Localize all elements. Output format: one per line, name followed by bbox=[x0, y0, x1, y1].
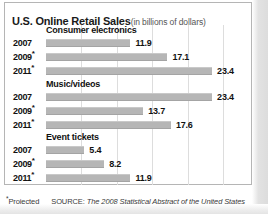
bar-row: 2011*17.6 bbox=[5, 120, 253, 131]
bar-value-label: 23.4 bbox=[217, 66, 234, 76]
bar-row: 200711.9 bbox=[5, 38, 253, 49]
bar-value-label: 8.2 bbox=[109, 159, 121, 169]
chart-panel: U.S. Online Retail Sales(in billions of … bbox=[4, 2, 252, 185]
asterisk-icon: * bbox=[32, 156, 35, 165]
bar bbox=[46, 93, 212, 101]
group-label: Event tickets bbox=[46, 132, 99, 142]
bar-value-label: 11.9 bbox=[135, 173, 151, 183]
scan-shadow-right bbox=[252, 0, 268, 214]
row-year-label: 2009* bbox=[13, 52, 35, 62]
row-year-label: 2011* bbox=[13, 173, 34, 183]
asterisk-icon: * bbox=[31, 117, 34, 126]
bar bbox=[46, 67, 212, 75]
asterisk-icon: * bbox=[32, 103, 35, 112]
plot-area: Consumer electronics200711.92009*17.1201… bbox=[5, 25, 253, 185]
bar-row: 200723.4 bbox=[5, 92, 253, 103]
bar bbox=[46, 121, 171, 129]
bar-value-label: 17.1 bbox=[172, 52, 189, 62]
scan-shadow-bottom bbox=[0, 204, 268, 214]
bar-row: 2009*13.7 bbox=[5, 106, 253, 117]
bar-group: Event tickets20075.42009*8.22011*11.9 bbox=[5, 132, 253, 187]
bar bbox=[46, 146, 84, 154]
group-label: Music/videos bbox=[46, 79, 100, 89]
row-year-label: 2011* bbox=[13, 66, 34, 76]
row-year-label: 2009* bbox=[13, 106, 35, 116]
asterisk-icon: * bbox=[31, 63, 34, 72]
bar-value-label: 5.4 bbox=[89, 145, 101, 155]
bar-row: 2009*17.1 bbox=[5, 52, 253, 63]
row-year-label: 2007 bbox=[13, 92, 32, 102]
bar-group: Music/videos200723.42009*13.72011*17.6 bbox=[5, 79, 253, 134]
bar-value-label: 11.9 bbox=[135, 38, 151, 48]
bar bbox=[46, 53, 167, 61]
bar-value-label: 13.7 bbox=[148, 106, 165, 116]
row-year-label: 2007 bbox=[13, 145, 32, 155]
bar bbox=[46, 107, 143, 115]
bar bbox=[46, 39, 130, 47]
bar-group: Consumer electronics200711.92009*17.1201… bbox=[5, 25, 253, 80]
bar-value-label: 23.4 bbox=[217, 92, 234, 102]
bar-row: 2011*23.4 bbox=[5, 66, 253, 77]
asterisk-icon: * bbox=[32, 49, 35, 58]
bar bbox=[46, 174, 130, 182]
bar-value-label: 17.6 bbox=[176, 120, 193, 130]
group-label: Consumer electronics bbox=[46, 25, 137, 35]
bar bbox=[46, 160, 104, 168]
infographic-root: U.S. Online Retail Sales(in billions of … bbox=[0, 0, 268, 214]
asterisk-icon: * bbox=[31, 170, 34, 179]
row-year-label: 2009* bbox=[13, 159, 35, 169]
bar-row: 20075.4 bbox=[5, 145, 253, 156]
row-year-label: 2011* bbox=[13, 120, 34, 130]
bar-row: 2009*8.2 bbox=[5, 159, 253, 170]
bar-row: 2011*11.9 bbox=[5, 173, 253, 184]
row-year-label: 2007 bbox=[13, 38, 32, 48]
